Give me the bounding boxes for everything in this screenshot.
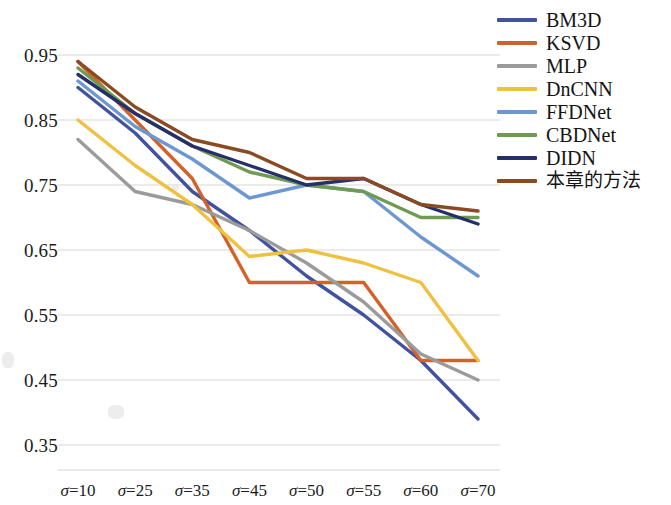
x-axis-tick-label: σ=55: [346, 482, 381, 499]
x-axis-tick-label: σ=70: [461, 482, 496, 499]
x-axis-tick-label: σ=10: [61, 482, 96, 499]
legend-color-swatch: [497, 64, 537, 68]
series-line-dncnn: [78, 120, 478, 361]
legend-item-label: BM3D: [546, 10, 602, 30]
legend-item-label: MLP: [546, 56, 587, 76]
legend-color-swatch: [497, 110, 537, 114]
legend-item[interactable]: CBDNet: [497, 123, 671, 146]
series-line-cbdnet: [78, 68, 478, 218]
legend-item[interactable]: KSVD: [497, 31, 671, 54]
line-chart: 0.350.450.550.650.750.850.95 σ=10σ=25σ=3…: [0, 0, 671, 505]
legend-item-label: 本章的方法: [546, 171, 641, 190]
x-axis-tick-label: σ=50: [289, 482, 324, 499]
plot-area: [0, 0, 500, 505]
legend-item-label: FFDNet: [546, 102, 612, 122]
legend-color-swatch: [497, 41, 537, 45]
legend-item-label: KSVD: [546, 33, 600, 53]
x-axis-tick-label: σ=25: [118, 482, 153, 499]
legend-item[interactable]: 本章的方法: [497, 169, 671, 192]
x-axis: σ=10σ=25σ=35σ=45σ=50σ=55σ=60σ=70: [0, 476, 500, 505]
legend-color-swatch: [497, 133, 537, 137]
legend: BM3DKSVDMLPDnCNNFFDNetCBDNetDIDN本章的方法: [497, 8, 671, 192]
legend-item-label: DIDN: [546, 148, 596, 168]
legend-color-swatch: [497, 179, 537, 183]
x-axis-tick-label: σ=35: [175, 482, 210, 499]
plot-svg: [0, 0, 500, 505]
legend-item-label: CBDNet: [546, 125, 616, 145]
legend-item[interactable]: FFDNet: [497, 100, 671, 123]
x-axis-tick-label: σ=60: [403, 482, 438, 499]
legend-color-swatch: [497, 87, 537, 91]
legend-item[interactable]: MLP: [497, 54, 671, 77]
x-axis-tick-label: σ=45: [232, 482, 267, 499]
legend-item-label: DnCNN: [546, 79, 613, 99]
legend-color-swatch: [497, 156, 537, 160]
legend-item[interactable]: DIDN: [497, 146, 671, 169]
legend-item[interactable]: BM3D: [497, 8, 671, 31]
legend-item[interactable]: DnCNN: [497, 77, 671, 100]
legend-color-swatch: [497, 18, 537, 22]
